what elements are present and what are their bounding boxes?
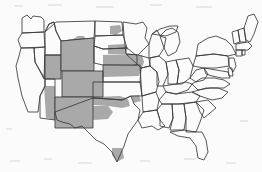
scan-speck bbox=[196, 6, 212, 8]
shading-patch-dakotas bbox=[110, 25, 122, 35]
state-alabama bbox=[170, 104, 186, 130]
state-montana bbox=[45, 21, 95, 41]
state-maryland bbox=[204, 68, 230, 78]
state-florida bbox=[170, 130, 208, 160]
scan-speck bbox=[150, 4, 162, 6]
shading-patch-utah bbox=[44, 55, 61, 79]
state-michigan bbox=[160, 28, 180, 56]
state-rhode-island bbox=[242, 50, 245, 55]
scan-speck bbox=[240, 120, 248, 122]
shading-patch-arizona bbox=[44, 86, 55, 120]
scan-speck bbox=[226, 162, 236, 164]
state-new-york bbox=[196, 36, 236, 56]
scan-speck bbox=[140, 160, 150, 162]
state-virginia bbox=[192, 78, 230, 90]
state-louisiana bbox=[138, 110, 165, 130]
scan-artifact-layer bbox=[6, 4, 248, 164]
scan-speck bbox=[184, 158, 196, 160]
state-massachusetts bbox=[236, 42, 252, 50]
scan-speck bbox=[44, 158, 52, 160]
state-nevada bbox=[34, 47, 45, 79]
us-choropleth-map-figure bbox=[0, 0, 262, 172]
state-ohio bbox=[176, 58, 193, 84]
state-new-mexico bbox=[55, 97, 93, 128]
usa-map-svg bbox=[0, 0, 262, 172]
state-connecticut bbox=[236, 50, 242, 56]
state-maine bbox=[244, 14, 258, 42]
state-mississippi bbox=[157, 104, 173, 128]
scan-speck bbox=[48, 4, 62, 6]
state-wisconsin bbox=[149, 30, 166, 58]
state-delaware bbox=[228, 68, 233, 76]
scan-speck bbox=[78, 162, 92, 164]
state-california bbox=[16, 48, 45, 112]
state-colorado bbox=[62, 71, 103, 97]
scan-speck bbox=[14, 5, 23, 7]
state-south-carolina bbox=[196, 100, 216, 118]
state-oregon bbox=[18, 32, 45, 48]
scan-speck bbox=[10, 160, 20, 162]
state-georgia bbox=[184, 102, 204, 132]
state-wyoming bbox=[61, 38, 94, 71]
state-arkansas bbox=[142, 92, 159, 112]
scan-speck bbox=[96, 6, 114, 8]
state-washington bbox=[22, 15, 44, 33]
scan-speck bbox=[6, 128, 12, 130]
state-missouri bbox=[140, 66, 159, 96]
